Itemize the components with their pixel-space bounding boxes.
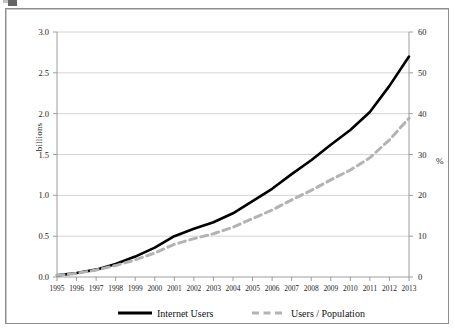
y-axis-tick-label-right: 10 — [418, 231, 427, 241]
y-axis-tick-label-left: 1.0 — [38, 190, 49, 200]
y-axis-tick-label-left: 2.5 — [38, 68, 49, 78]
x-axis-tick-label: 1996 — [69, 284, 84, 293]
x-axis-tick-label: 2004 — [226, 284, 241, 293]
y-axis-tick-label-right: 20 — [418, 190, 427, 200]
x-axis-tick-label: 2007 — [284, 284, 299, 293]
y-axis-tick-label-right: 40 — [418, 109, 427, 119]
series-line-users-population — [57, 118, 409, 275]
y-axis-tick-label-left: 0.5 — [38, 231, 49, 241]
x-axis-tick-label: 1995 — [50, 284, 65, 293]
y-axis-label-right: % — [436, 156, 444, 166]
x-axis-tick-label: 2005 — [245, 284, 260, 293]
x-axis-tick-label: 2009 — [323, 284, 338, 293]
y-axis-tick-label-right: 30 — [418, 150, 427, 160]
y-axis-tick-label-right: 60 — [418, 27, 427, 37]
x-axis-tick-label: 2011 — [363, 284, 378, 293]
x-axis-tick-label: 1998 — [108, 284, 123, 293]
x-axis-tick-label: 2003 — [206, 284, 221, 293]
legend-label-1: Internet Users — [157, 308, 213, 319]
y-axis-tick-label-right: 0 — [418, 272, 422, 282]
x-axis-tick-label: 2010 — [343, 284, 358, 293]
x-axis-tick-label: 2013 — [402, 284, 417, 293]
legend-label-2: Users / Population — [291, 308, 365, 319]
x-axis-tick-label: 2002 — [186, 284, 201, 293]
chart-figure: 0.00.51.01.52.02.53.00102030405060199519… — [0, 0, 455, 332]
x-axis-tick-label: 2012 — [382, 284, 397, 293]
plot-area: 0.00.51.01.52.02.53.00102030405060199519… — [0, 0, 455, 332]
y-axis-tick-label-left: 3.0 — [38, 27, 49, 37]
y-axis-tick-label-right: 50 — [418, 68, 427, 78]
y-axis-label-left: billions — [34, 97, 44, 177]
x-axis-tick-label: 2001 — [167, 284, 182, 293]
x-axis-tick-label: 2006 — [265, 284, 280, 293]
x-axis-tick-label: 2000 — [147, 284, 162, 293]
y-axis-tick-label-left: 0.0 — [38, 272, 49, 282]
line-chart-svg: 0.00.51.01.52.02.53.00102030405060199519… — [0, 0, 455, 332]
x-axis-tick-label: 1999 — [128, 284, 143, 293]
x-axis-tick-label: 2008 — [304, 284, 319, 293]
x-axis-tick-label: 1997 — [89, 284, 104, 293]
